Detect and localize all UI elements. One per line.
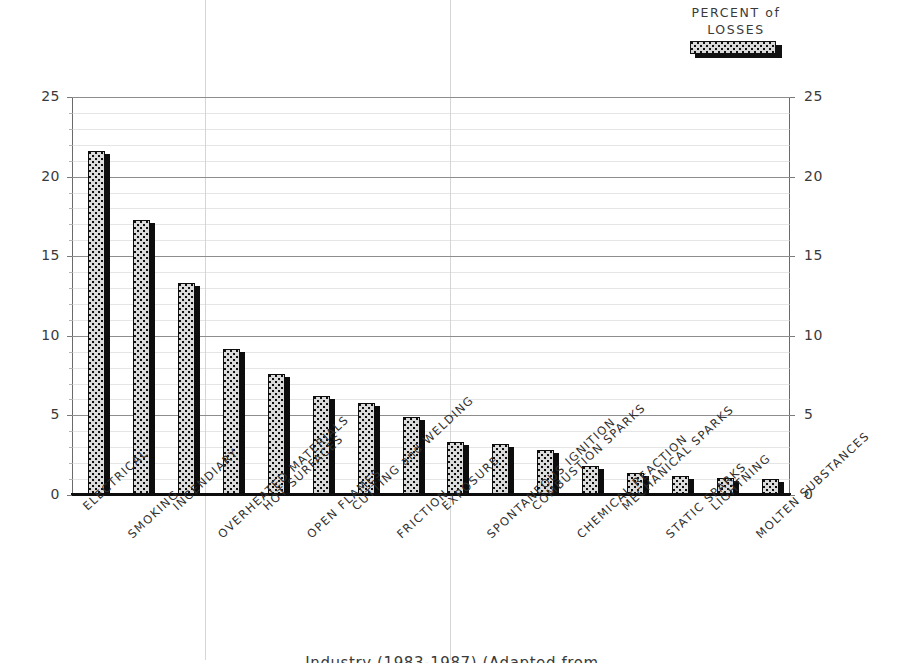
bar-group (88, 147, 110, 495)
y-tick-left-10 (67, 336, 72, 337)
legend-swatch-shadow-bottom (695, 54, 782, 58)
y-tick-right-25 (790, 97, 795, 98)
legend-line-1: PERCENT of (616, 4, 856, 21)
bar (223, 349, 240, 495)
legend-swatch (690, 41, 782, 58)
y-tick-right-5 (790, 415, 795, 416)
y-tick-label-left-0: 0 (51, 486, 60, 502)
bar-group (178, 279, 200, 495)
y-tick-label-left-20: 20 (41, 168, 60, 184)
legend-swatch-wrap (616, 41, 856, 58)
bar-shadow (599, 469, 604, 495)
y-tick-label-right-10: 10 (804, 327, 823, 343)
y-tick-left-0 (67, 495, 72, 496)
bar-shadow (240, 352, 245, 495)
bar-shadow (509, 447, 514, 495)
y-tick-label-right-15: 15 (804, 247, 823, 263)
bar-shadow (150, 223, 155, 495)
y-tick-label-right-20: 20 (804, 168, 823, 184)
y-tick-left-15 (67, 256, 72, 257)
y-tick-left-25 (67, 97, 72, 98)
bar (88, 151, 105, 495)
bar-shadow (195, 286, 200, 495)
bar (178, 283, 195, 495)
y-tick-right-20 (790, 177, 795, 178)
legend-line-2: LOSSES (616, 21, 856, 38)
bar (582, 466, 599, 495)
bar-shadow (105, 154, 110, 495)
y-tick-label-right-5: 5 (804, 406, 813, 422)
y-tick-label-left-25: 25 (41, 88, 60, 104)
y-tick-right-10 (790, 336, 795, 337)
y-tick-label-left-15: 15 (41, 247, 60, 263)
bar-shadow (420, 420, 425, 495)
y-tick-right-15 (790, 256, 795, 257)
caption-sliver: Industry (1983-1987) (Adapted from (0, 654, 904, 663)
bar-group (223, 345, 245, 495)
y-tick-label-right-25: 25 (804, 88, 823, 104)
y-tick-label-left-10: 10 (41, 327, 60, 343)
y-tick-left-20 (67, 177, 72, 178)
y-tick-label-left-5: 5 (51, 406, 60, 422)
x-tick-labels: ELECTRICALSMOKINGINCENDIARYOVERHEATED MA… (72, 497, 790, 647)
chart-legend: PERCENT of LOSSES (616, 4, 856, 58)
legend-swatch-body (690, 41, 776, 54)
y-tick-left-5 (67, 415, 72, 416)
